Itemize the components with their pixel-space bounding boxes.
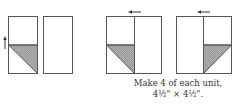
arrow-up-icon	[3, 36, 6, 49]
arrow-left-icon	[128, 10, 141, 13]
unit-a	[107, 17, 162, 74]
caption-line-2: 4½" × 4½".	[118, 89, 233, 100]
caption-line-1: Make 4 of each unit,	[118, 78, 233, 89]
plain-strip	[44, 17, 73, 74]
strip-with-triangle	[9, 17, 38, 74]
arrow-left-icon	[197, 10, 210, 13]
unit-b	[177, 17, 232, 74]
